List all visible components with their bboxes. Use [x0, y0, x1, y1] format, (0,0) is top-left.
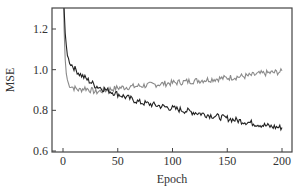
line-chart: 050100150200 0.60.81.01.2 Epoch MSE [0, 0, 306, 191]
y-tick-label: 1.0 [33, 63, 48, 77]
x-tick-label: 100 [164, 154, 182, 168]
x-tick-label: 150 [218, 154, 236, 168]
series-line-gray [63, 0, 282, 94]
x-tick-label: 200 [273, 154, 291, 168]
plot-area [63, 0, 282, 130]
y-tick-label: 0.8 [33, 103, 48, 117]
y-tick-label: 1.2 [33, 22, 48, 36]
x-axis-label: Epoch [157, 172, 188, 186]
x-tick-label: 0 [60, 154, 66, 168]
series-line-black [63, 0, 282, 130]
x-tick-label: 50 [112, 154, 124, 168]
x-axis-ticks: 050100150200 [60, 148, 291, 168]
axes-frame [52, 8, 292, 152]
y-tick-label: 0.6 [33, 144, 48, 158]
y-axis-label: MSE [3, 68, 17, 93]
